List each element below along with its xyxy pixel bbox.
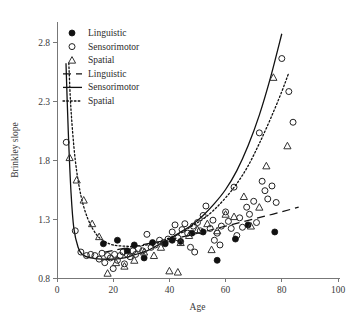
data-point [251,198,257,204]
data-point [100,241,106,247]
legend-label: Linguistic [88,69,127,79]
data-point [263,162,270,169]
data-point [73,176,80,183]
data-point [169,229,175,235]
data-point [144,231,150,237]
data-point [240,193,247,200]
data-point [214,257,220,263]
x-tick-labels: 020406080100 [55,285,346,295]
data-point [246,211,252,217]
x-tick-label: 0 [55,285,60,295]
data-point [104,270,111,277]
data-point [182,221,188,227]
data-point [89,220,96,227]
data-point [211,237,217,243]
data-point [265,196,271,202]
data-point [232,236,238,242]
x-tick-label: 100 [331,285,346,295]
y-tick-marks [53,42,57,278]
x-tick-label: 40 [165,285,175,295]
legend-item-1: Sensorimotor [69,42,140,52]
data-point [290,119,296,125]
legend-label: Sensorimotor [88,82,140,92]
x-tick-label: 20 [108,285,118,295]
legend-label: Spatial [88,55,115,65]
data-point [110,266,116,272]
data-point [279,56,285,62]
data-point [217,242,223,248]
data-point [99,250,105,256]
legend-label: Sensorimotor [88,42,140,52]
legend-open-circle-icon [69,44,75,50]
data-point [114,237,120,243]
data-point [174,269,181,276]
plot-svg: 020406080100 0.81.31.82.32.8 Age Brinkle… [0,0,363,324]
legend-item-0: Linguistic [69,28,127,38]
legend-filled-circle-icon [69,30,75,36]
data-point [141,255,147,261]
x-tick-label: 60 [221,285,231,295]
data-point [272,229,278,235]
x-tick-label: 80 [277,285,287,295]
data-point [112,251,118,257]
legend-item-3: Linguistic [63,69,127,79]
data-point [262,188,268,194]
data-point [150,252,157,259]
y-tick-label: 1.3 [38,215,50,225]
data-point [102,260,108,266]
data-point [162,241,168,247]
data-point [254,220,260,226]
data-point [166,267,173,274]
data-point [131,242,137,248]
y-tick-label: 2.3 [38,97,50,107]
data-point [259,178,265,184]
data-point [256,204,263,211]
data-point [72,228,78,234]
y-tick-labels: 0.81.31.82.32.8 [38,38,50,284]
y-tick-label: 1.8 [38,156,50,166]
data-point [228,225,234,231]
brinkley-slope-chart: 020406080100 0.81.31.82.32.8 Age Brinkle… [0,0,363,324]
data-point [286,89,292,95]
data-point [150,240,156,246]
legend-open-triangle-icon [68,57,75,64]
data-point [210,217,216,223]
x-axis-title: Age [190,302,206,312]
legend-label: Spatial [88,96,115,106]
data-point [284,142,291,149]
legend-item-4: Sensorimotor [63,82,140,92]
data-point [88,251,94,257]
data-point [203,203,209,209]
data-point [244,204,250,210]
data-point [256,130,262,136]
data-point [124,248,130,254]
data-point [239,224,245,230]
data-point [273,199,279,205]
x-tick-marks [57,278,338,282]
y-tick-label: 0.8 [38,274,50,284]
legend-item-2: Spatial [68,55,114,65]
data-point [269,183,275,189]
data-point [192,249,198,255]
y-tick-label: 2.8 [38,38,50,48]
data-point [112,259,119,266]
legend-label: Linguistic [88,28,127,38]
chart-legend: LinguisticSensorimotorSpatialLinguisticS… [63,28,140,106]
data-point [172,222,178,228]
data-point [208,246,215,253]
y-axis-title: Brinkley slope [10,122,20,178]
data-point [169,237,175,243]
